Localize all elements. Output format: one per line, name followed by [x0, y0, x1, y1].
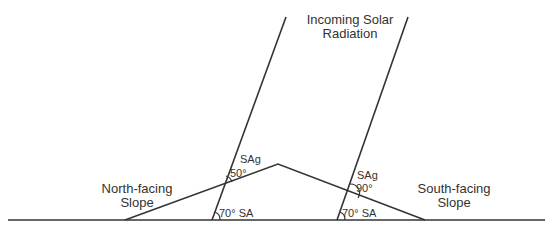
title-line-2: Radiation	[300, 27, 400, 41]
south-sa-value: 70°	[342, 207, 359, 219]
north-sa-value: 70°	[219, 207, 236, 219]
left-solar-ray	[212, 17, 286, 220]
north-slope-line-1: North-facing	[92, 182, 182, 196]
north-sa-label: 70° SA	[219, 207, 253, 219]
north-slope-label: North-facing Slope	[92, 182, 182, 210]
south-sag-label: SAg	[357, 169, 378, 181]
south-slope-label: South-facing Slope	[404, 182, 504, 210]
south-sa-label: 70° SA	[342, 207, 376, 219]
north-slope-line-2: Slope	[92, 196, 182, 210]
north-sa-name: SA	[239, 207, 254, 219]
title-line-1: Incoming Solar	[300, 13, 400, 27]
south-sa-name: SA	[362, 207, 377, 219]
south-slope-line-1: South-facing	[404, 182, 504, 196]
south-slope-line-2: Slope	[404, 196, 504, 210]
south-sag-value: 90°	[356, 182, 373, 194]
north-sag-label: SAg	[240, 153, 261, 165]
title-label: Incoming Solar Radiation	[300, 13, 400, 41]
north-sag-value: 50°	[230, 167, 247, 179]
